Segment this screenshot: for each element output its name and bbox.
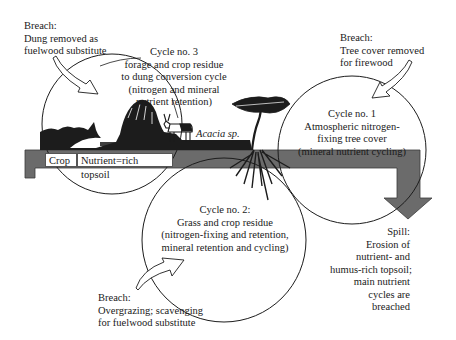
breach-tree-text: Breach: Tree cover removed for firewood xyxy=(340,32,424,70)
cycle2-title: Cycle no. 2: xyxy=(158,204,292,217)
cycle3-title: Cycle no. 3 xyxy=(112,46,236,59)
cycle2-line-2: (nitrogen-fixing and retention, xyxy=(158,229,292,242)
spill-title: Spill: xyxy=(330,226,410,239)
crop-label: Crop xyxy=(45,153,77,167)
cycle2-line-3: mineral retention and cycling) xyxy=(158,242,292,255)
cycle1-text: Cycle no. 1 Atmospheric nitrogen- fixing… xyxy=(290,108,414,158)
breach-arrow-dung-icon xyxy=(53,56,98,94)
topsoil-label: Nutrient=rich topsoil xyxy=(77,153,173,167)
breach-dung-title: Breach: xyxy=(24,20,107,33)
breach-dung-line-1: Dung removed as xyxy=(24,33,107,46)
spill-line-6: breached xyxy=(330,301,410,314)
cycle2-text: Cycle no. 2: Grass and crop residue (nit… xyxy=(158,204,292,254)
cycle1-title: Cycle no. 1 xyxy=(290,108,414,121)
cycle1-line-2: fixing tree cover xyxy=(290,133,414,146)
spill-line-3: humus-rich topsoil; xyxy=(330,264,410,277)
acacia-label: Acacia sp. xyxy=(196,128,240,141)
breach-dung-text: Breach: Dung removed as fuelwood substit… xyxy=(24,20,107,58)
cycle3-text: Cycle no. 3 forage and crop residue to d… xyxy=(112,46,236,109)
breach-arrow-grazing-icon xyxy=(136,258,184,290)
breach-grazing-line-2: for fuelwood substitute xyxy=(98,317,203,330)
spill-line-2: nutrient- and xyxy=(330,251,410,264)
spill-line-5: cycles are xyxy=(330,289,410,302)
breach-grazing-line-1: Overgrazing; scavenging xyxy=(98,305,203,318)
spill-line-4: main nutrient xyxy=(330,276,410,289)
breach-grazing-title: Breach: xyxy=(98,292,203,305)
spill-text: Spill: Erosion of nutrient- and humus-ri… xyxy=(330,226,410,314)
cycle2-line-1: Grass and crop residue xyxy=(158,217,292,230)
breach-tree-line-1: Tree cover removed xyxy=(340,45,424,58)
cycle3-line-2: to dung conversion cycle xyxy=(112,71,236,84)
breach-tree-title: Breach: xyxy=(340,32,424,45)
spill-line-1: Erosion of xyxy=(330,239,410,252)
breach-grazing-text: Breach: Overgrazing; scavenging for fuel… xyxy=(98,292,203,330)
cycle3-line-1: forage and crop residue xyxy=(112,59,236,72)
cycle3-line-3: (nitrogen and mineral xyxy=(112,84,236,97)
breach-dung-line-2: fuelwood substitute xyxy=(24,45,107,58)
cycle1-line-1: Atmospheric nitrogen- xyxy=(290,121,414,134)
breach-tree-line-2: for firewood xyxy=(340,57,424,70)
cycle1-line-3: (mineral nutrient cycling) xyxy=(290,146,414,159)
cycle3-line-4: nutrient retention) xyxy=(112,96,236,109)
